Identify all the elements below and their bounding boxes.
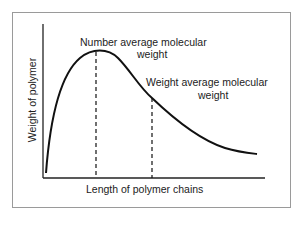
weight-average-label-line2: weight	[198, 89, 228, 101]
y-axis-label: Weight of polymer	[26, 58, 38, 142]
number-average-label-line1: Number average molecular	[80, 36, 207, 48]
number-average-label-line2: weight	[137, 48, 167, 60]
weight-average-label-line1: Weight average molecular	[146, 76, 268, 88]
x-axis-label: Length of polymer chains	[86, 183, 203, 195]
